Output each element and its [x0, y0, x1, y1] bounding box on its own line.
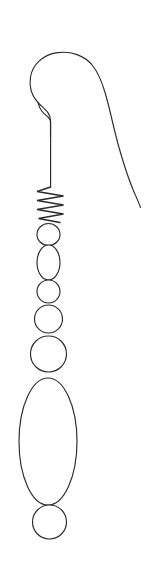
bead-7-circle-bottom [33, 505, 67, 539]
bead-5-circle-large [31, 336, 67, 372]
bead-1-circle-small [37, 224, 60, 246]
bead-3-circle [37, 280, 60, 303]
bead-2-oval [37, 245, 60, 280]
drawing-canvas: Earring Line Drawing Black line drawing … [0, 0, 159, 576]
earring-illustration [0, 0, 159, 576]
bead-6-ellipse-large [19, 378, 77, 505]
background-rect [0, 0, 159, 576]
bead-4-circle [35, 305, 63, 333]
